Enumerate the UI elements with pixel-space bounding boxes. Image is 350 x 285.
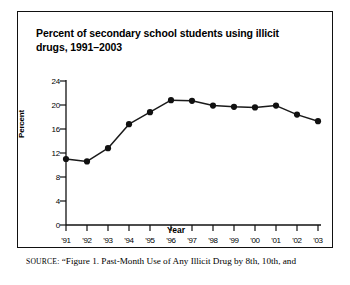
- source-text: “Figure 1. Past-Month Use of Any Illicit…: [62, 256, 296, 266]
- data-point: [147, 109, 153, 115]
- data-point-markers: [63, 97, 321, 164]
- line-chart-svg: [18, 12, 334, 249]
- data-point: [84, 158, 90, 164]
- data-point: [273, 103, 279, 109]
- data-point: [126, 121, 132, 127]
- data-point: [210, 103, 216, 109]
- figure-border: Percent of secondary school students usi…: [17, 11, 333, 248]
- data-point: [189, 98, 195, 104]
- chart-plot-area: Percent Year 24 20 16 12 8 4 0 '91 '92 '…: [18, 12, 334, 249]
- data-point: [168, 97, 174, 103]
- data-point: [252, 104, 258, 110]
- data-point: [315, 118, 321, 124]
- data-point: [105, 145, 111, 151]
- data-series-line: [66, 100, 318, 161]
- data-point: [63, 156, 69, 162]
- y-axis-ticks: [60, 81, 66, 225]
- source-note: SOURCE: “Figure 1. Past-Month Use of Any…: [26, 255, 338, 268]
- source-keyword: SOURCE:: [26, 257, 59, 266]
- x-axis-ticks: [66, 225, 318, 231]
- data-point: [294, 112, 300, 118]
- data-point: [231, 104, 237, 110]
